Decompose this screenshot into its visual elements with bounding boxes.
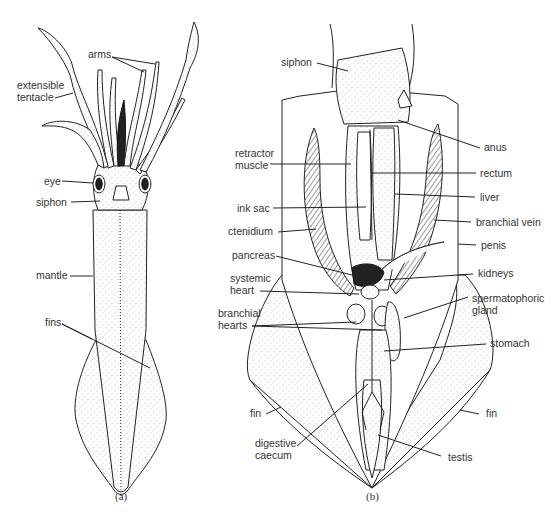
label-ctenidium: ctenidium — [228, 225, 273, 237]
label-pancreas: pancreas — [232, 249, 275, 261]
branchial-heart-left — [347, 304, 365, 324]
label-liver: liver — [480, 191, 500, 203]
label-arms: arms — [88, 48, 111, 60]
label-branchial-vein: branchial vein — [476, 216, 541, 228]
siphon-internal — [336, 48, 410, 124]
caption-b: (b) — [366, 490, 379, 503]
label-siphon-a: siphon — [36, 196, 67, 208]
label-retractor: retractor — [235, 147, 275, 159]
label-eye: eye — [44, 175, 61, 187]
panel-a-external-view: (a) — [38, 22, 198, 503]
label-muscle: muscle — [235, 159, 268, 171]
caption-a: (a) — [115, 490, 128, 503]
label-stomach: stomach — [490, 337, 530, 349]
label-penis: penis — [481, 239, 506, 251]
arm-center-dark — [117, 100, 125, 166]
label-fin-right: fin — [486, 407, 497, 419]
squid-anatomy-diagram: (a) — [0, 0, 559, 521]
label-siphon-b: siphon — [281, 56, 312, 68]
liver — [373, 128, 395, 260]
label-extensible: extensible — [17, 79, 64, 91]
extensible-tentacle-right — [140, 22, 198, 172]
label-fin-left: fin — [250, 407, 261, 419]
label-testis: testis — [448, 451, 473, 463]
label-caecum: caecum — [255, 449, 292, 461]
label-systemic: systemic — [230, 272, 271, 284]
label-ink-sac: ink sac — [237, 202, 270, 214]
label-kidneys: kidneys — [478, 267, 514, 279]
label-fins: fins — [45, 316, 61, 328]
label-hearts: hearts — [218, 319, 247, 331]
label-rectum: rectum — [480, 167, 512, 179]
label-heart: heart — [230, 284, 254, 296]
label-gland: gland — [472, 304, 498, 316]
label-tentacle: tentacle — [17, 91, 54, 103]
label-digestive: digestive — [255, 437, 297, 449]
arm — [124, 70, 146, 166]
label-spermatophoric: spermatophoric — [472, 292, 544, 304]
siphon-shape — [113, 186, 129, 200]
label-branchial: branchial — [218, 307, 261, 319]
ink-sac — [357, 132, 372, 240]
systemic-heart — [361, 285, 379, 299]
label-mantle: mantle — [36, 269, 68, 281]
panel-b-internal-view: (b) — [247, 24, 493, 503]
label-anus: anus — [484, 141, 507, 153]
